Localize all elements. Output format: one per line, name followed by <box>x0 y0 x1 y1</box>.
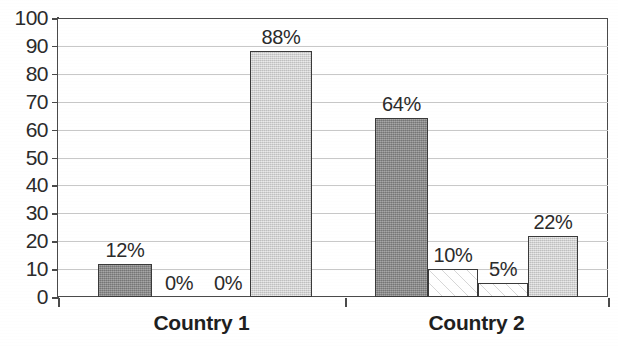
y-axis-tick-label: 70 <box>0 91 48 112</box>
bar <box>250 51 312 297</box>
bar-value-label: 12% <box>86 240 164 260</box>
gridline <box>58 102 608 103</box>
x-axis-tick <box>608 298 610 307</box>
gridline <box>58 130 608 131</box>
bar <box>375 118 428 297</box>
x-axis-tick <box>345 298 347 307</box>
gridline <box>58 46 608 47</box>
y-axis-tick-label: 10 <box>0 258 48 279</box>
y-axis-tick-label: 30 <box>0 202 48 223</box>
bar-value-label: 22% <box>516 212 590 232</box>
bar-value-label: 64% <box>363 94 440 114</box>
bar <box>478 283 528 297</box>
x-axis-tick <box>58 298 60 307</box>
gridline <box>58 74 608 75</box>
y-axis-tick-label: 0 <box>0 286 48 307</box>
y-axis-tick-label: 80 <box>0 63 48 84</box>
y-axis-tick-label: 60 <box>0 119 48 140</box>
x-axis-category-label: Country 1 <box>102 312 302 333</box>
bar-value-label: 88% <box>238 27 324 47</box>
bar-chart: 0102030405060708090100 12%0%0%88%64%10%5… <box>0 0 618 346</box>
x-axis-category-label: Country 2 <box>377 312 577 333</box>
gridline <box>58 158 608 159</box>
y-axis-tick-label: 50 <box>0 147 48 168</box>
y-axis-tick-label: 20 <box>0 230 48 251</box>
y-axis-tick-label: 100 <box>0 7 48 28</box>
y-axis-tick-label: 90 <box>0 35 48 56</box>
y-axis-tick-label: 40 <box>0 174 48 195</box>
bar <box>528 236 578 297</box>
gridline <box>58 185 608 186</box>
